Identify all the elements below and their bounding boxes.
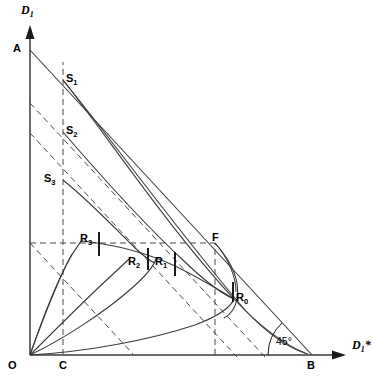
dashed-ray-1 (30, 103, 265, 357)
point-label-R3: R3 (80, 233, 92, 247)
curve-R3-to-R0-upper (81, 241, 234, 299)
curve-O-inner-left (30, 254, 72, 355)
curve-S2 (63, 132, 234, 299)
point-label-S3: S3 (44, 173, 56, 187)
point-label-R2: R2 (128, 256, 140, 270)
vertical-axis-label: D1 (21, 4, 34, 19)
point-label-B: B (307, 360, 315, 371)
line-AB (30, 50, 312, 355)
curve-O-R0 (30, 299, 234, 355)
dashed-construction-group (30, 62, 265, 357)
point-label-S2: S2 (66, 125, 78, 139)
point-label-R0: R0 (236, 292, 248, 306)
curve-S3 (63, 180, 155, 263)
horizontal-axis-arrowhead (332, 351, 346, 360)
point-label-A: A (13, 43, 21, 54)
curve-O-R3 (30, 241, 81, 355)
diagram-canvas (0, 0, 374, 389)
point-label-C: C (59, 360, 67, 371)
curve-O-R2 (30, 257, 131, 355)
vertical-axis-arrowhead (26, 25, 35, 39)
angle-label-45: 45° (276, 336, 292, 347)
point-label-O: O (8, 360, 17, 371)
rent-equilibrium-diagram: D1 D1* A O C B F S1 S2 S3 R3 R2 R1 R0 45… (0, 0, 374, 389)
point-label-F: F (212, 232, 219, 243)
point-label-R1: R1 (155, 256, 167, 270)
dashed-ray-3 (30, 243, 133, 354)
horizontal-axis-label: D1* (352, 339, 371, 354)
point-label-S1: S1 (66, 73, 78, 87)
